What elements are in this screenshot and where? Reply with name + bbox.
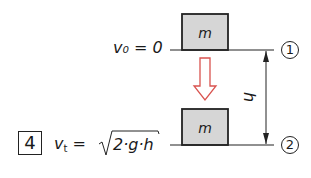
figure-number-box: 4 xyxy=(18,131,42,155)
fall-arrow-icon xyxy=(194,58,216,100)
mass-label-bottom: m xyxy=(182,120,228,136)
diagram-canvas xyxy=(0,0,311,178)
dimension-arrowhead-bottom-icon xyxy=(263,133,269,144)
initial-velocity-label: v₀ = 0 xyxy=(113,40,163,56)
position-marker-1: 1 xyxy=(281,41,299,59)
position-marker-2: 2 xyxy=(281,136,299,154)
height-label: h xyxy=(241,92,257,102)
final-velocity-label: vt = xyxy=(54,136,86,154)
equals-sign: = xyxy=(67,134,86,153)
velocity-formula-radicand: 2·g·h xyxy=(113,137,154,153)
mass-label-top: m xyxy=(182,25,228,41)
dimension-arrowhead-top-icon xyxy=(263,51,269,62)
